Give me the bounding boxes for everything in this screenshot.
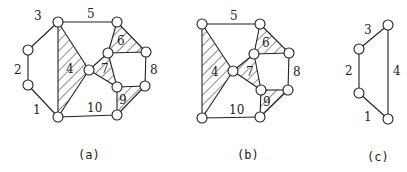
node <box>255 19 265 29</box>
label-6: 6 <box>117 34 125 48</box>
label-10: 10 <box>229 103 244 117</box>
label-4: 4 <box>66 62 74 76</box>
node <box>284 48 294 58</box>
label-1: 1 <box>33 103 41 117</box>
node <box>103 48 113 58</box>
label-3: 3 <box>364 23 372 37</box>
label-9: 9 <box>119 93 127 107</box>
node <box>228 66 238 76</box>
node <box>112 82 122 92</box>
node <box>23 45 33 55</box>
label-5: 5 <box>230 9 238 23</box>
label-8: 8 <box>150 63 158 77</box>
caption-b: (b) <box>237 148 259 162</box>
node <box>112 110 122 120</box>
node <box>140 81 150 91</box>
panel-c: 1 2 3 4 (c) <box>345 20 401 164</box>
node <box>383 20 393 30</box>
label-3: 3 <box>34 9 42 23</box>
node <box>354 44 364 54</box>
nodes-c <box>354 20 393 124</box>
label-4: 4 <box>393 64 401 78</box>
label-7: 7 <box>101 62 109 76</box>
label-2: 2 <box>14 63 22 77</box>
label-2: 2 <box>345 64 353 78</box>
panel-a: 1 2 3 4 5 6 7 8 9 10 (a) <box>14 7 158 162</box>
node <box>283 85 293 95</box>
caption-c: (c) <box>367 150 389 164</box>
node <box>197 19 207 29</box>
node <box>354 88 364 98</box>
label-8: 8 <box>293 65 301 79</box>
node <box>53 112 63 122</box>
label-10: 10 <box>87 101 102 115</box>
node <box>53 17 63 27</box>
face-6-shaded <box>108 22 146 53</box>
node <box>383 114 393 124</box>
node <box>197 113 207 123</box>
label-1: 1 <box>364 110 372 124</box>
label-5: 5 <box>87 7 95 21</box>
node <box>141 47 151 57</box>
label-6: 6 <box>262 36 270 50</box>
node <box>112 17 122 27</box>
node <box>256 85 266 95</box>
label-9: 9 <box>263 95 271 109</box>
edges-c <box>359 25 388 119</box>
label-7: 7 <box>246 65 254 79</box>
node <box>249 49 259 59</box>
node <box>255 112 265 122</box>
label-4: 4 <box>211 65 219 79</box>
caption-a: (a) <box>78 148 100 162</box>
node <box>23 80 33 90</box>
node <box>84 65 94 75</box>
panel-b: 4 5 6 7 8 9 10 (b) <box>197 9 301 162</box>
figure-canvas: 1 2 3 4 5 6 7 8 9 10 (a) <box>0 0 407 172</box>
